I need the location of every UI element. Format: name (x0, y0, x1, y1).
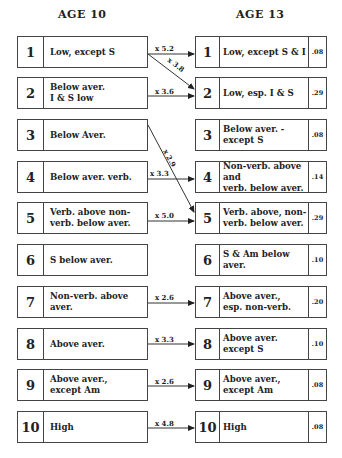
arrow-label: x 2.6 (155, 377, 174, 386)
arrow-label: x 3.8 (166, 55, 187, 74)
arrow-label: x 5.2 (155, 44, 174, 53)
arrow-label: x 3.3 (150, 169, 169, 178)
arrow-label: x 2.9 (161, 148, 178, 169)
arrow-label: x 4.8 (155, 419, 174, 428)
arrow-label: x 2.6 (155, 293, 174, 302)
arrow-label: x 3.6 (155, 87, 174, 96)
arrow-label: x 3.3 (155, 335, 174, 344)
transition-arrows: x 5.2 x 3.8 x 3.6 x 2.9 x 3.3 x 5.0 x 2.… (0, 0, 342, 458)
arrow-label: x 5.0 (155, 211, 174, 220)
